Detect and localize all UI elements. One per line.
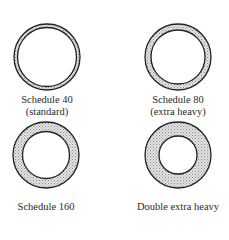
label-schedule-80-title: Schedule 80 bbox=[123, 94, 229, 106]
label-schedule-40-sub: (standard) bbox=[0, 106, 102, 118]
pipe-bore bbox=[159, 136, 197, 174]
label-schedule-160-title: Schedule 160 bbox=[0, 201, 101, 213]
label-schedule-160: Schedule 160 bbox=[0, 201, 101, 213]
label-schedule-80-sub: (extra heavy) bbox=[123, 106, 229, 118]
label-schedule-80: Schedule 80 (extra heavy) bbox=[123, 94, 229, 118]
pipe-bore bbox=[18, 28, 77, 87]
pipe-ring-dxh bbox=[145, 122, 211, 188]
label-double-extra-heavy-title: Double extra heavy bbox=[123, 201, 229, 213]
label-double-extra-heavy: Double extra heavy bbox=[123, 201, 229, 213]
pipe-bore bbox=[23, 132, 70, 179]
label-schedule-40: Schedule 40 (standard) bbox=[0, 94, 102, 118]
pipe-bore bbox=[151, 30, 205, 84]
pipe-ring-sch40 bbox=[14, 24, 80, 90]
pipe-ring-sch160 bbox=[13, 122, 79, 188]
label-schedule-40-title: Schedule 40 bbox=[0, 94, 102, 106]
pipe-ring-sch80 bbox=[145, 24, 211, 90]
